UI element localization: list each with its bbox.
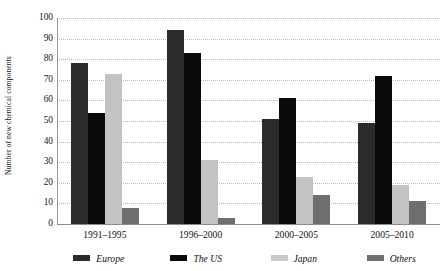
- y-tick-label: 20: [1, 178, 53, 187]
- bar-europe-1996–2000[interactable]: [167, 30, 184, 224]
- y-tick-label: 40: [1, 137, 53, 146]
- y-tick-label: 0: [1, 219, 53, 228]
- bar-japan-2000–2005[interactable]: [296, 177, 313, 224]
- legend-item-japan[interactable]: Japan: [245, 253, 343, 264]
- x-tick-label: 2005–2010: [344, 228, 440, 244]
- legend-swatch-icon: [170, 255, 187, 261]
- y-tick-label: 70: [1, 75, 53, 84]
- bar-group: [344, 18, 440, 224]
- bar-group: [249, 18, 345, 224]
- bar-the-us-1996–2000[interactable]: [184, 53, 201, 224]
- y-tick-label: 100: [1, 13, 53, 22]
- bar-japan-1996–2000[interactable]: [201, 160, 218, 224]
- bar-others-2000–2005[interactable]: [313, 195, 330, 224]
- bar-the-us-2005–2010[interactable]: [375, 76, 392, 224]
- bar-japan-1991–1995[interactable]: [105, 74, 122, 224]
- bar-others-1991–1995[interactable]: [122, 208, 139, 224]
- y-tick-label: 80: [1, 54, 53, 63]
- y-tick-label: 30: [1, 157, 53, 166]
- y-tick-label: 10: [1, 198, 53, 207]
- legend-label: Europe: [96, 253, 124, 264]
- bar-the-us-2000–2005[interactable]: [279, 98, 296, 224]
- legend-swatch-icon: [271, 255, 288, 261]
- y-axis-ticks: 1009080706050403020100: [0, 0, 53, 271]
- y-tick-label: 90: [1, 34, 53, 43]
- bar-europe-1991–1995[interactable]: [71, 63, 88, 224]
- bar-chart: Number of new chemical components 100908…: [0, 0, 446, 271]
- bar-europe-2000–2005[interactable]: [262, 119, 279, 224]
- legend-item-the-us[interactable]: The US: [148, 253, 246, 264]
- x-axis-ticks: 1991–19951996–20002000–20052005–2010: [57, 228, 440, 244]
- bar-japan-2005–2010[interactable]: [392, 185, 409, 224]
- x-tick-label: 1991–1995: [57, 228, 153, 244]
- legend-label: Others: [390, 253, 416, 264]
- chart-legend: EuropeThe USJapanOthers: [50, 250, 440, 266]
- legend-swatch-icon: [367, 255, 384, 261]
- legend-label: The US: [193, 253, 222, 264]
- x-tick-label: 2000–2005: [249, 228, 345, 244]
- legend-swatch-icon: [73, 255, 90, 261]
- legend-label: Japan: [294, 253, 317, 264]
- legend-item-others[interactable]: Others: [343, 253, 441, 264]
- y-tick-label: 50: [1, 116, 53, 125]
- bar-groups: [57, 18, 440, 224]
- bar-europe-2005–2010[interactable]: [358, 123, 375, 224]
- bar-group: [57, 18, 153, 224]
- y-tick-label: 60: [1, 95, 53, 104]
- bar-the-us-1991–1995[interactable]: [88, 113, 105, 224]
- bar-others-1996–2000[interactable]: [218, 218, 235, 224]
- x-axis-line: [57, 224, 440, 225]
- legend-item-europe[interactable]: Europe: [50, 253, 148, 264]
- x-tick-label: 1996–2000: [153, 228, 249, 244]
- bar-group: [153, 18, 249, 224]
- bar-others-2005–2010[interactable]: [409, 201, 426, 224]
